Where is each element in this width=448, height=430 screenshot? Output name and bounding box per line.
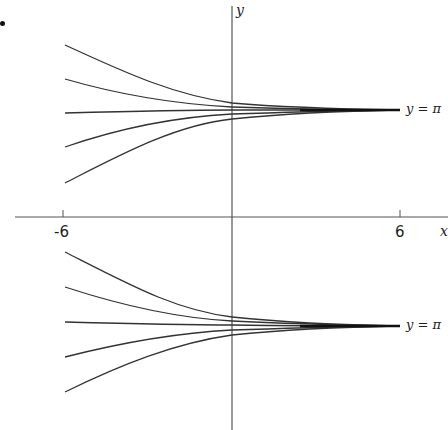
upper-asymptote-label: y = π [406, 101, 441, 116]
lower-asymptote-label: y = π [406, 317, 441, 332]
y-axis-label: y [236, 2, 244, 18]
plot-area [0, 0, 448, 430]
x-tick-label-neg6: -6 [54, 223, 69, 241]
x-tick-label-6: 6 [395, 223, 405, 241]
x-axis-label: x [440, 223, 448, 239]
